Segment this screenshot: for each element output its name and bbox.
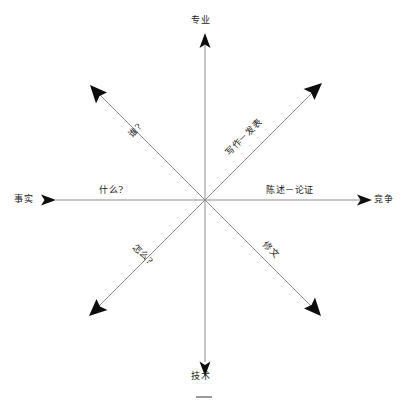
axis-label-right: 竞争 [374, 195, 393, 204]
segment-label-claim-argument: 陈述－论证 [266, 186, 314, 195]
axis-line-diagonal-ne [205, 92, 313, 200]
axis-line-diagonal-sw [99, 200, 205, 306]
axis-line-diagonal-se [205, 200, 311, 306]
axis-label-bottom: 技术 [191, 372, 210, 381]
arrowhead-northeast-icon [304, 83, 323, 100]
arrowhead-southeast-icon [304, 298, 321, 317]
axis-horizontal [41, 195, 372, 206]
segment-label-what: 什么? [99, 186, 124, 195]
arrowhead-northwest-icon [90, 85, 107, 104]
axis-label-left: 事实 [14, 195, 33, 204]
arrowhead-southwest-icon [89, 299, 108, 316]
axis-label-top: 专业 [191, 16, 210, 25]
diagram-canvas: 专业 技术 事实 竞争 什么? 陈述－论证 谁? 写作－发表 怎么? 修文 [0, 0, 410, 405]
arrowhead-left-inward-icon [41, 195, 56, 206]
bottom-artifact-mark [196, 396, 212, 398]
eight-axis-star-diagram [0, 0, 410, 405]
